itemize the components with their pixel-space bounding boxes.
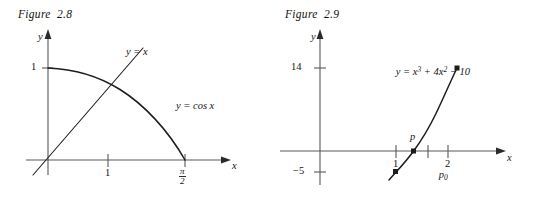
x-tick-label-2: 2 (445, 159, 450, 170)
identity-line (33, 48, 143, 175)
figures-page: Figure 2.8 y x 1 1 π 2 y (0, 0, 535, 209)
y-axis-arrowhead (317, 29, 324, 39)
x-axis-label: x (232, 161, 237, 172)
y-axis-label: y (38, 32, 43, 43)
y-tick-label-14: 14 (291, 62, 302, 73)
marker-lower-point (393, 169, 398, 174)
label-point-p: p (410, 132, 415, 143)
figure-2-8: Figure 2.8 y x 1 1 π 2 y (0, 0, 267, 209)
pi-numerator: π (179, 167, 186, 176)
y-tick-label-1: 1 (31, 62, 36, 73)
equation-mid: + 4x (421, 66, 443, 77)
equation-tail: − 10 (447, 66, 470, 77)
y-axis-arrowhead (45, 29, 52, 39)
two-denominator: 2 (179, 176, 186, 186)
x-axis-label: x (507, 153, 512, 164)
x-tick-label-1: 1 (393, 159, 398, 170)
y-tick-label-minus-5: −5 (293, 166, 304, 177)
marker-root-point-p (411, 149, 416, 154)
x-axis-arrowhead (221, 157, 231, 164)
x-axis-arrowhead (496, 148, 506, 155)
equation-base: y = x (396, 66, 418, 77)
cosine-curve (48, 68, 185, 160)
figure-2-9-plot (267, 0, 535, 209)
label-cubic-equation: y = x3 + 4x2 − 10 (380, 55, 470, 88)
y-axis-label: y (311, 32, 316, 43)
figure-2-9: Figure 2.9 y x 14 −5 (267, 0, 535, 209)
label-y-equals-x: y = x (126, 47, 148, 58)
p0-subscript: 0 (444, 172, 448, 181)
x-tick-label-1: 1 (105, 168, 110, 179)
label-y-equals-cos-x: y = cos x (176, 101, 214, 112)
x-tick-label-pi-over-2: π 2 (179, 167, 186, 187)
